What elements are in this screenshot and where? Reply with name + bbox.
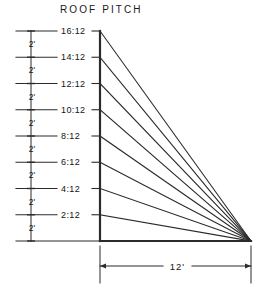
vertical-dimension-label-6: 2' bbox=[29, 197, 35, 207]
pitch-line-4-12 bbox=[100, 189, 251, 242]
pitch-label-12-12: 12:12 bbox=[61, 79, 86, 89]
dim-arrow-right-icon bbox=[245, 263, 251, 268]
pitch-label-14-12: 14:12 bbox=[61, 52, 86, 62]
drawing-canvas bbox=[0, 0, 276, 295]
vertical-dimension-label-3: 2' bbox=[29, 118, 35, 128]
pitch-label-2-12: 2:12 bbox=[61, 210, 80, 220]
vertical-dimension-label-1: 2' bbox=[29, 65, 35, 75]
vertical-dimension-label-5: 2' bbox=[29, 170, 35, 180]
vertical-dimension-label-2: 2' bbox=[29, 92, 35, 102]
pitch-line-2-12 bbox=[100, 215, 251, 241]
vertical-dimension-label-0: 2' bbox=[29, 39, 35, 49]
pitch-label-6-12: 6:12 bbox=[61, 157, 80, 167]
pitch-line-14-12 bbox=[100, 57, 251, 241]
vertical-dimension-label-4: 2' bbox=[29, 144, 35, 154]
roof-pitch-drawing: ROOF PITCH 16:1214:1212:1210:128:126:124… bbox=[0, 0, 276, 295]
vertical-dimension-label-7: 2' bbox=[29, 223, 35, 233]
pitch-label-16-12: 16:12 bbox=[61, 26, 86, 36]
pitch-label-4-12: 4:12 bbox=[61, 184, 80, 194]
run-dimension-label: 12' bbox=[170, 261, 185, 272]
pitch-line-16-12 bbox=[100, 31, 251, 241]
pitch-line-12-12 bbox=[100, 84, 251, 242]
dim-arrow-left-icon bbox=[100, 263, 106, 268]
pitch-line-10-12 bbox=[100, 110, 251, 241]
pitch-line-6-12 bbox=[100, 162, 251, 241]
pitch-label-10-12: 10:12 bbox=[61, 105, 86, 115]
pitch-label-8-12: 8:12 bbox=[61, 131, 80, 141]
pitch-line-8-12 bbox=[100, 136, 251, 241]
